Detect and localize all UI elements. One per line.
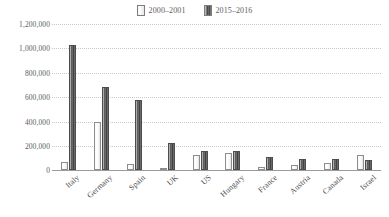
x-tick-hungary: Hungary [219, 173, 246, 199]
bar-chart: 2000–2001 2015–2016 1,200,000 1,000,000 … [0, 0, 389, 217]
x-tick-canada: Canada [320, 173, 344, 196]
x-axis: ItalyGermanySpainUKUSHungaryFranceAustri… [0, 0, 389, 217]
x-tick-spain: Spain [127, 173, 147, 192]
x-tick-italy: Italy [64, 173, 81, 190]
x-tick-austria: Austria [288, 173, 312, 196]
x-tick-israel: Israel [358, 173, 378, 192]
x-tick-uk: UK [165, 173, 180, 188]
x-tick-france: France [256, 173, 279, 195]
x-tick-germany: Germany [86, 173, 115, 200]
x-tick-us: US [199, 173, 213, 187]
